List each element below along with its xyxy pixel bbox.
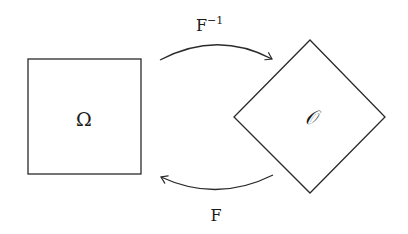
calligraphic-o-label: 𝒪 — [305, 106, 322, 128]
omega-label: Ω — [76, 108, 92, 130]
forward-map-label: F — [210, 206, 221, 225]
inverse-map-arrow — [160, 45, 272, 60]
mapping-diagram: Ω 𝒪 F−1 F — [0, 0, 408, 234]
inverse-map-label: F−1 — [196, 14, 223, 35]
forward-map-arrow — [161, 175, 273, 190]
